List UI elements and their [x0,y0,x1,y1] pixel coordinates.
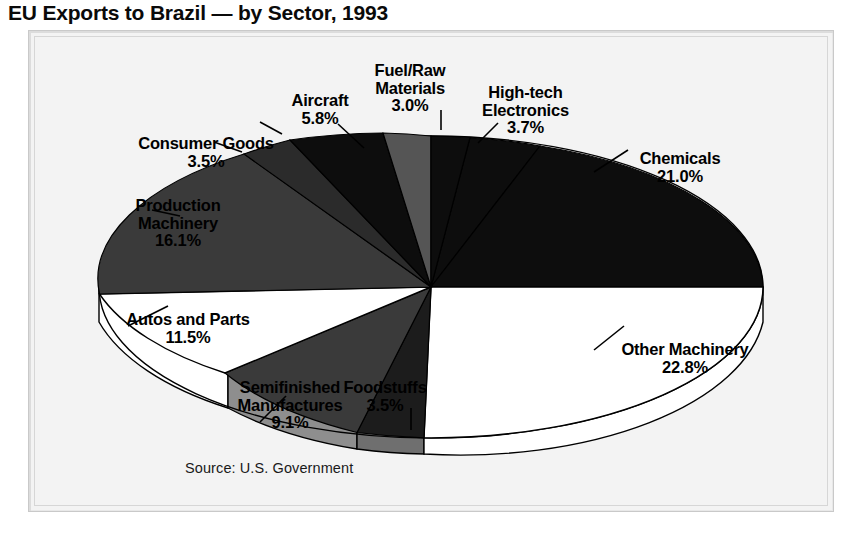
label-other-machinery-value: 22.8% [590,359,780,377]
label-fuel-raw-materials-value: 3.0% [355,97,465,115]
label-high-tech-electronics: High-tech Electronics 3.7% [463,84,588,137]
label-high-tech-electronics-line2: Electronics [463,102,588,120]
label-foodstuffs: Foodstuffs 3.5% [320,379,450,414]
label-aircraft-name: Aircraft [291,91,348,109]
label-foodstuffs-value: 3.5% [320,397,450,415]
chart-figure: EU Exports to Brazil — by Sector, 1993 [0,0,862,536]
label-semifinished-manufactures-value: 9.1% [210,414,370,432]
label-high-tech-electronics-line1: High-tech [488,83,562,101]
page-title: EU Exports to Brazil — by Sector, 1993 [8,1,388,25]
label-production-machinery-line1: Production [135,196,220,214]
label-chemicals-name: Chemicals [640,149,721,167]
label-fuel-raw-materials-line2: Materials [355,80,465,98]
label-foodstuffs-name: Foodstuffs [343,378,426,396]
label-consumer-goods-value: 3.5% [116,153,296,171]
label-other-machinery-name: Other Machinery [621,340,748,358]
label-fuel-raw-materials: Fuel/Raw Materials 3.0% [355,62,465,115]
label-consumer-goods-name: Consumer Goods [138,134,274,152]
label-production-machinery-line2: Machinery [108,215,248,233]
label-aircraft: Aircraft 5.8% [275,92,365,127]
label-consumer-goods: Consumer Goods 3.5% [116,135,296,170]
label-other-machinery: Other Machinery 22.8% [590,341,780,376]
source-note: Source: U.S. Government [185,460,353,476]
label-production-machinery: Production Machinery 16.1% [108,197,248,250]
label-high-tech-electronics-value: 3.7% [463,119,588,137]
label-autos-and-parts: Autos and Parts 11.5% [98,311,278,346]
label-aircraft-value: 5.8% [275,110,365,128]
label-chemicals-value: 21.0% [605,168,755,186]
label-production-machinery-value: 16.1% [108,232,248,250]
label-autos-and-parts-value: 11.5% [98,329,278,347]
label-chemicals: Chemicals 21.0% [605,150,755,185]
label-fuel-raw-materials-line1: Fuel/Raw [375,61,446,79]
label-autos-and-parts-name: Autos and Parts [126,310,250,328]
